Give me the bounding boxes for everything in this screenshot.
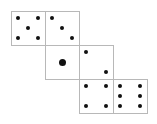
face-two <box>79 45 114 80</box>
pip-dot <box>84 84 88 88</box>
pip-dot <box>84 50 88 54</box>
pip-dot <box>36 36 40 40</box>
face-four <box>79 79 114 114</box>
pip-dot <box>104 84 108 88</box>
pip-dot <box>70 36 74 40</box>
pip-dot <box>104 104 108 108</box>
face-five <box>11 11 46 46</box>
pip-dot <box>84 104 88 108</box>
pip-dot <box>118 94 122 98</box>
face-one <box>45 45 80 80</box>
pip-dot <box>118 104 122 108</box>
pip-dot <box>36 16 40 20</box>
pip-dot <box>118 84 122 88</box>
pip-dot <box>26 26 30 30</box>
face-three <box>45 11 80 46</box>
face-six <box>113 79 148 114</box>
pip-dot <box>16 36 20 40</box>
pip-dot <box>60 26 64 30</box>
pip-dot <box>50 16 54 20</box>
pip-dot <box>138 104 142 108</box>
pip-dot <box>138 84 142 88</box>
pip-dot <box>104 70 108 74</box>
pip-dot <box>16 16 20 20</box>
pip-dot <box>138 94 142 98</box>
pip-dot <box>59 59 66 66</box>
